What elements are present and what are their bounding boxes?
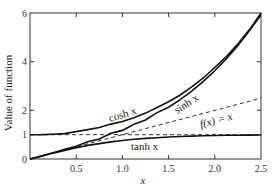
x-tick-labels: 0.5 1.0 1.5 2.0 2.5	[70, 163, 267, 174]
x-tick-1.5: 1.5	[162, 163, 175, 174]
tanh-label: tanh x	[131, 140, 159, 152]
y-tick-1: 1	[22, 129, 27, 140]
x-tick-2.5: 2.5	[255, 163, 268, 174]
y-axis-title: Value of function	[2, 54, 14, 131]
x-axis-title: x	[140, 174, 146, 185]
y-tick-0: 0	[22, 154, 27, 165]
y-tick-2: 2	[22, 105, 27, 116]
plot-frame	[30, 13, 261, 159]
x-tick-0.5: 0.5	[70, 163, 83, 174]
identity-label: f(x) = x	[198, 110, 233, 131]
y-tick-labels: 0 1 2 4 6	[22, 8, 27, 165]
x-tick-2.0: 2.0	[209, 163, 222, 174]
y-tick-4: 4	[22, 56, 27, 67]
x-tick-1.0: 1.0	[116, 163, 129, 174]
hyperbolic-functions-chart: 0.5 1.0 1.5 2.0 2.5 0 1 2 4 6 x Value of…	[0, 0, 272, 185]
sinh-curve	[30, 15, 261, 159]
y-axis-ticks	[30, 62, 261, 135]
y-tick-6: 6	[22, 8, 27, 19]
